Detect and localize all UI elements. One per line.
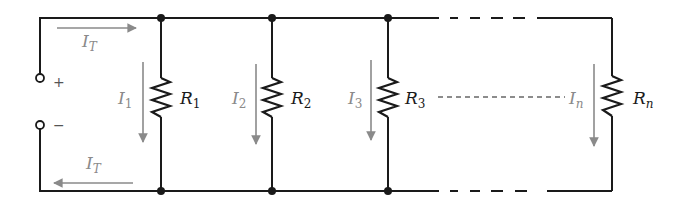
resistor-r3-label: R3: [404, 88, 425, 111]
junction-dot-icon: [157, 187, 165, 195]
total-current-top-label: IT: [81, 31, 98, 54]
positive-terminal-icon: [36, 74, 44, 82]
negative-terminal-label: −: [53, 117, 65, 133]
junction-dot-icon: [384, 187, 392, 195]
resistor-rn-label: Rn: [632, 88, 654, 111]
source-terminals: [36, 74, 44, 129]
junction-dot-icon: [268, 14, 276, 22]
resistor-r3-icon: [379, 78, 397, 117]
left-bottom-wire: [40, 129, 439, 191]
total-current-bottom-label: IT: [85, 153, 102, 176]
resistor-rn-icon: [603, 76, 621, 116]
junction-dot-icon: [384, 14, 392, 22]
positive-terminal-label: +: [53, 74, 65, 90]
left-top-wire: [40, 18, 439, 74]
parallel-circuit-diagram: + − IT IT I1 I2 I3 In R1 R2 R3 Rn: [0, 0, 686, 209]
resistor-r2-icon: [263, 78, 281, 117]
branch-current-2-label: I2: [231, 88, 246, 111]
current-arrows: [54, 28, 594, 183]
junction-dot-icon: [268, 187, 276, 195]
resistor-r2-label: R2: [290, 88, 311, 111]
resistor-r1-label: R1: [179, 88, 200, 111]
branch-current-3-label: I3: [347, 88, 362, 111]
resistor-r1-icon: [152, 78, 170, 117]
negative-terminal-icon: [36, 121, 44, 129]
branch-current-1-label: I1: [117, 88, 132, 111]
branch-current-n-label: In: [568, 88, 583, 111]
junction-dot-icon: [157, 14, 165, 22]
